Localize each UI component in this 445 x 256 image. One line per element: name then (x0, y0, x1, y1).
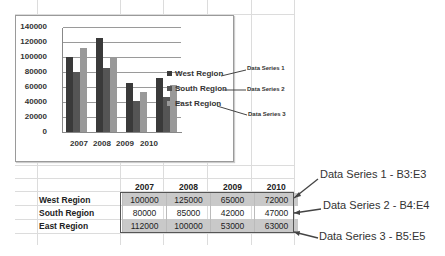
annotation-arrows (0, 0, 445, 256)
